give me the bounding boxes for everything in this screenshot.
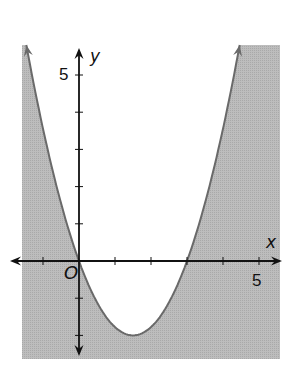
y-axis-label: y [90, 48, 100, 65]
graph-canvas [0, 0, 286, 378]
y-tick-label-5: 5 [59, 66, 68, 83]
x-tick-label-5: 5 [252, 272, 261, 289]
origin-label: O [64, 264, 78, 282]
x-axis-label: x [266, 234, 276, 251]
